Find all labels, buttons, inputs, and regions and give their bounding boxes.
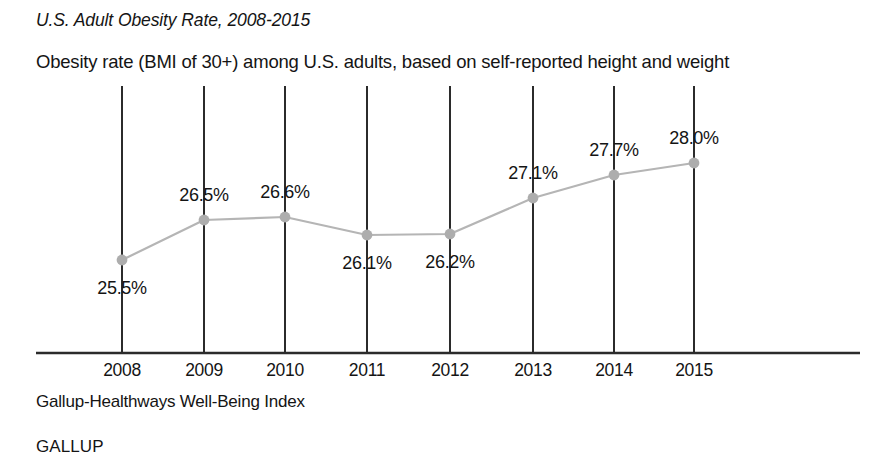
data-point-2010 bbox=[280, 212, 291, 223]
data-point-2008 bbox=[117, 255, 128, 266]
value-label-2011: 26.1% bbox=[342, 253, 392, 274]
tick-label-2009: 2009 bbox=[185, 360, 223, 381]
value-label-2010: 26.6% bbox=[260, 182, 310, 203]
value-label-2012: 26.2% bbox=[425, 252, 475, 273]
tick-label-2013: 2013 bbox=[514, 360, 552, 381]
data-point-2015 bbox=[689, 158, 700, 169]
brand-logo-text: GALLUP bbox=[36, 437, 104, 457]
obesity-rate-line-chart: U.S. Adult Obesity Rate, 2008-2015 Obesi… bbox=[0, 0, 896, 471]
series-line bbox=[122, 163, 694, 260]
data-point-2013 bbox=[528, 193, 539, 204]
value-label-2008: 25.5% bbox=[97, 278, 147, 299]
tick-label-2012: 2012 bbox=[431, 360, 469, 381]
tick-label-2010: 2010 bbox=[266, 360, 304, 381]
data-point-2012 bbox=[445, 229, 456, 240]
tick-label-2014: 2014 bbox=[595, 360, 633, 381]
value-label-2013: 27.1% bbox=[508, 163, 558, 184]
data-point-2011 bbox=[362, 230, 373, 241]
data-point-2014 bbox=[609, 170, 620, 181]
tick-label-2008: 2008 bbox=[103, 360, 141, 381]
value-label-2014: 27.7% bbox=[589, 140, 639, 161]
value-label-2009: 26.5% bbox=[179, 185, 229, 206]
source-attribution: Gallup-Healthways Well-Being Index bbox=[36, 392, 305, 412]
data-point-2009 bbox=[199, 215, 210, 226]
value-label-2015: 28.0% bbox=[669, 128, 719, 149]
tick-label-2015: 2015 bbox=[675, 360, 713, 381]
tick-label-2011: 2011 bbox=[349, 360, 385, 381]
